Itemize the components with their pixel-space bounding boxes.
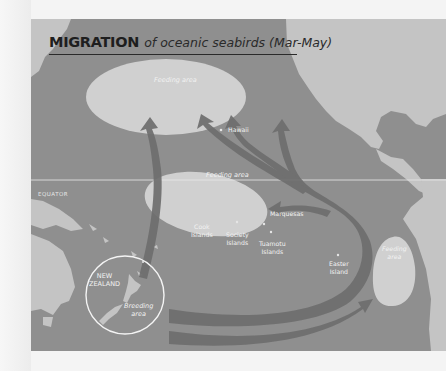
label-cook-islands: Cook Islands <box>191 223 213 238</box>
title-strong: MIGRATION <box>49 34 139 50</box>
dot-hawaii <box>220 129 223 132</box>
label-tuamotu-islands: Tuamotu Islands <box>259 240 286 255</box>
dot-marquesas <box>263 223 265 225</box>
label-feeding-equator: Feeding area <box>206 172 249 180</box>
label-feeding-north: Feeding area <box>154 77 197 85</box>
dot-society <box>236 221 238 223</box>
label-society-islands: Society Islands <box>226 231 249 246</box>
label-breeding-area: Breeding area <box>124 303 153 318</box>
map-title: MIGRATION of oceanic seabirds (Mar-May) <box>49 32 297 55</box>
label-feeding-east: Feeding area <box>382 245 407 260</box>
label-new-zealand: NEW ZEALAND <box>89 273 120 288</box>
land-tasmania <box>43 317 53 327</box>
label-hawaii: Hawaii <box>228 126 249 134</box>
map-graphic <box>31 19 446 351</box>
migration-map: MIGRATION of oceanic seabirds (Mar-May) … <box>31 19 446 351</box>
land-australia <box>31 234 75 315</box>
dot-tuamotu <box>270 231 272 233</box>
equator-label: EQUATOR <box>37 191 69 197</box>
land-new-guinea <box>31 199 83 231</box>
dot-easter <box>337 254 339 256</box>
feeding-area-north <box>86 59 246 135</box>
label-marquesas: Marquesas <box>270 210 303 218</box>
migration-arrows <box>139 114 373 346</box>
title-subtitle: of oceanic seabirds (Mar-May) <box>144 35 332 50</box>
label-easter-island: Easter Island <box>329 260 349 275</box>
land-central-america <box>376 149 426 194</box>
page-margin <box>0 0 31 371</box>
